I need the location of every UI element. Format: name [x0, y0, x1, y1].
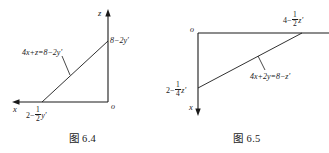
figure-6-5: o x 4−12z′ 2−14z′ 4x+2y=8−z′ 图 6.5 — [165, 0, 329, 153]
x-axis-arrowhead — [195, 109, 200, 117]
equation-text: 4x+2y=8−z — [250, 72, 288, 81]
figure-6-4: x z o 8−2y′ 4x+z=8−2y′ 2−12y′ 图 6.4 — [0, 0, 165, 153]
figure-6-5-caption: 图 6.5 — [165, 130, 329, 145]
fraction-numerator: 1 — [175, 81, 181, 89]
left-intercept-lead: 2− — [166, 86, 175, 95]
top-intercept-label: 4−12z′ — [283, 11, 303, 28]
equation-label: 4x+2y=8−z′ — [250, 73, 290, 81]
x-intercept-fraction: 12 — [35, 106, 41, 123]
left-intercept-prime: ′ — [184, 86, 186, 95]
equation-text: 4x+z=8−2y — [22, 48, 60, 57]
top-intercept-prime: ′ — [301, 16, 303, 25]
fraction-numerator: 1 — [292, 11, 298, 19]
equation-label: 4x+z=8−2y′ — [22, 49, 62, 57]
fraction-denominator: 2 — [35, 114, 41, 123]
x-intercept-prime: ′ — [45, 111, 47, 120]
z-intercept-label: 8−2y′ — [110, 37, 129, 45]
top-intercept-fraction: 12 — [292, 11, 298, 28]
z-intercept-prime: ′ — [127, 36, 129, 45]
equation-leader-line — [62, 56, 70, 75]
figure-6-4-caption: 图 6.4 — [0, 130, 165, 145]
left-intercept-fraction: 14 — [175, 81, 181, 98]
z-intercept-text: 8−2y — [110, 36, 127, 45]
x-intercept-lead: 2− — [26, 111, 35, 120]
origin-label: o — [190, 26, 194, 34]
x-axis-label: x — [189, 103, 193, 112]
origin-label: o — [111, 103, 115, 111]
figure-board: x z o 8−2y′ 4x+z=8−2y′ 2−12y′ 图 6.4 — [0, 0, 329, 153]
z-axis-arrowhead — [105, 9, 110, 17]
equation-prime: ′ — [60, 48, 62, 57]
left-intercept-label: 2−14z′ — [166, 81, 186, 98]
fraction-denominator: 4 — [175, 89, 181, 98]
top-intercept-lead: 4− — [283, 16, 292, 25]
equation-leader-line — [258, 56, 265, 70]
x-axis-label: x — [13, 105, 17, 114]
equation-prime: ′ — [288, 72, 290, 81]
x-intercept-label: 2−12y′ — [26, 106, 47, 123]
fraction-denominator: 2 — [292, 19, 298, 28]
fraction-numerator: 1 — [35, 106, 41, 114]
z-axis-label: z — [98, 9, 101, 18]
